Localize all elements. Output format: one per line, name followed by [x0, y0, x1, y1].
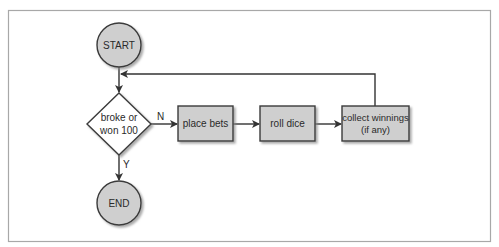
- node-decision-label-line2: won 100: [99, 125, 138, 136]
- node-collect-label-line2: (if any): [361, 124, 390, 135]
- node-end-label: END: [108, 198, 129, 209]
- edges: [119, 67, 375, 180]
- flowchart-figure: N Y START broke or won 100 place bets ro…: [0, 0, 499, 247]
- node-decision: broke or won 100: [87, 93, 151, 155]
- node-start: START: [97, 23, 141, 67]
- node-start-label: START: [103, 40, 135, 51]
- node-collect-winnings: collect winnings (if any): [342, 106, 409, 141]
- node-place-bets-label: place bets: [183, 118, 229, 129]
- node-end: END: [97, 181, 141, 225]
- node-collect-label-line1: collect winnings: [342, 112, 409, 123]
- edge-label-yes: Y: [123, 159, 130, 170]
- edge-label-no: N: [157, 111, 164, 122]
- node-decision-label-line1: broke or: [101, 112, 138, 123]
- edge-collect-loop-back: [121, 74, 375, 106]
- figure-frame: [9, 11, 491, 242]
- node-place-bets: place bets: [178, 106, 233, 141]
- node-roll-dice-label: roll dice: [270, 118, 305, 129]
- node-roll-dice: roll dice: [260, 106, 315, 141]
